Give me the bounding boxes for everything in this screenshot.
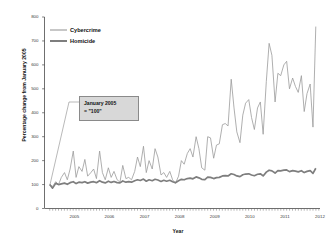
series-line-homicide [50,168,316,188]
annotation-line-2: = "100" [84,108,138,116]
x-axis-tick-label: 2012 [305,214,326,219]
x-axis-tick-label: 2006 [94,214,124,219]
legend-item-label: Homicide [70,38,95,44]
legend-item-cybercrime: Cybercrime [50,24,101,35]
y-axis-tick-label: 0 [25,206,39,211]
legend-item-label: Cybercrime [70,27,101,33]
annotation-line-1: January 2005 [84,100,138,108]
y-axis-title: Percentage change from January 2005 [21,25,27,165]
x-axis-tick-label: 2007 [130,214,160,219]
legend-item-homicide: Homicide [50,35,101,46]
y-axis-tick-label: 100 [25,182,39,187]
legend-line-swatch-icon [50,38,67,44]
x-axis-tick-label: 2008 [165,214,195,219]
x-axis-tick-label: 2005 [59,214,89,219]
chart-legend: Cybercrime Homicide [50,24,101,46]
chart-figure: 0100200300400500600700800 20052006200720… [0,0,326,241]
chart-plot-area [0,0,326,241]
x-axis-tick-label: 2011 [270,214,300,219]
x-axis-tick-label: 2010 [235,214,265,219]
x-axis-tick-label: 2009 [200,214,230,219]
legend-line-swatch-icon [50,27,67,33]
y-axis-tick-label: 800 [25,14,39,19]
annotation-callout-box: January 2005 = "100" [79,96,139,121]
x-axis-title: Year [148,228,208,234]
